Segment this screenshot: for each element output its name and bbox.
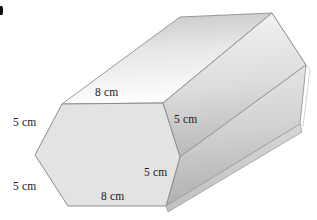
label-top-edge: 8 cm xyxy=(95,86,118,98)
figure-canvas: 8 cm 5 cm 5 cm 5 cm 5 cm 8 cm xyxy=(0,0,317,220)
label-lower-right-edge: 5 cm xyxy=(144,166,167,178)
label-bottom-edge: 8 cm xyxy=(101,190,124,202)
label-lower-left-edge: 5 cm xyxy=(13,180,36,192)
hexagonal-prism-svg xyxy=(0,0,317,220)
label-upper-left-edge: 5 cm xyxy=(13,116,36,128)
label-depth-edge: 5 cm xyxy=(174,113,197,125)
